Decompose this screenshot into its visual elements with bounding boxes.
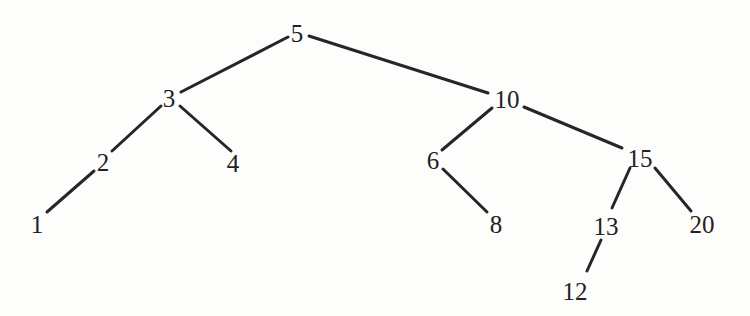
tree-node-3: 3 [163,86,176,111]
tree-node-13: 13 [594,214,619,239]
tree-edge-15-20 [655,168,691,211]
tree-edge-3-4 [180,106,231,151]
tree-edge-6-8 [443,169,487,212]
tree-edge-2-1 [47,171,94,212]
tree-diagram-canvas: 53102461518132012 [0,0,750,316]
tree-edge-5-10 [309,36,488,93]
tree-node-10: 10 [495,87,520,112]
tree-edge-13-12 [587,240,601,271]
tree-edge-3-2 [112,106,161,151]
tree-edge-15-13 [612,168,630,208]
tree-node-8: 8 [490,212,503,237]
tree-node-2: 2 [97,150,110,175]
tree-node-15: 15 [628,146,653,171]
tree-edge-10-15 [524,107,622,148]
tree-node-1: 1 [31,212,44,237]
tree-node-5: 5 [291,21,304,46]
tree-edge-5-3 [181,37,288,92]
tree-node-6: 6 [427,148,440,173]
tree-node-20: 20 [690,212,715,237]
tree-node-12: 12 [563,279,588,304]
tree-node-4: 4 [227,151,240,176]
tree-edge-10-6 [442,108,492,150]
